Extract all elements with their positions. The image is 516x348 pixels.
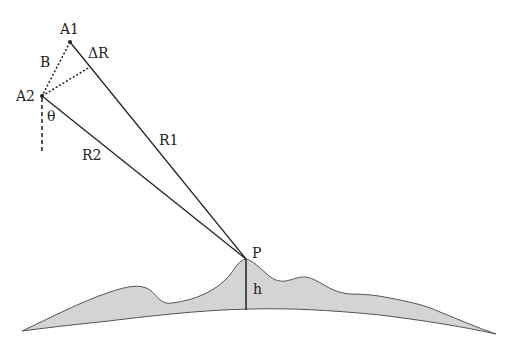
range2-label: R2 [82,147,101,163]
antenna2-point [40,94,44,98]
antenna1-point [68,40,72,44]
range2-line [42,96,246,259]
baseline-label: B [40,54,50,70]
antenna1-label: A1 [59,21,79,37]
height-label: h [253,281,262,297]
target-label: P [252,245,261,261]
range1-label: R1 [159,132,178,148]
interferometry-diagram: A1 A2 B ΔR θ R1 R2 P h [0,0,516,348]
look-angle-label: θ [47,108,55,124]
antenna2-label: A2 [15,88,35,104]
delta-range-label: ΔR [88,45,109,61]
